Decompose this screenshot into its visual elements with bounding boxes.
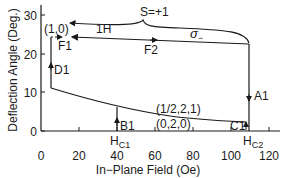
hc1-label: HC1 (110, 134, 130, 150)
s-plus-label: S=+1 (140, 5, 169, 19)
x-tick-label: 40 (110, 149, 124, 163)
x-tick-label: 80 (186, 149, 200, 163)
c1-label: C1 (230, 119, 246, 133)
f1-label: F1 (58, 39, 72, 53)
d1-label: D1 (54, 63, 70, 77)
b1-label: B1 (120, 119, 135, 133)
state-1-0-label: (1,0) (44, 22, 69, 36)
state-0-2-0-label: (0,2,0) (156, 117, 191, 131)
chart: 0 10 20 30 0 20 40 60 80 100 120 In−Plan… (0, 0, 286, 178)
f2-label: F2 (144, 43, 158, 57)
x-tick-label: 120 (259, 149, 279, 163)
hc2-label: HC2 (243, 134, 263, 150)
x-axis-label: In−Plane Field (Oe) (96, 163, 200, 177)
sigma-line (72, 37, 249, 44)
a1-label: A1 (254, 89, 269, 103)
y-axis-label: Deflection Angle (Deg.) (6, 8, 20, 131)
y-tick-label: 10 (24, 86, 38, 100)
y-tick-label: 20 (24, 48, 38, 62)
x-tick-label: 0 (38, 149, 45, 163)
x-tick-label: 60 (148, 149, 162, 163)
x-tick-label: 20 (72, 149, 86, 163)
state-half-2-1-label: (1/2,2,1) (156, 102, 201, 116)
x-tick-label: 100 (221, 149, 241, 163)
one-h-label: 1H (96, 22, 111, 36)
y-tick-label: 30 (24, 9, 38, 23)
y-tick-label: 0 (30, 125, 37, 139)
curve-half-2-1 (51, 88, 246, 122)
